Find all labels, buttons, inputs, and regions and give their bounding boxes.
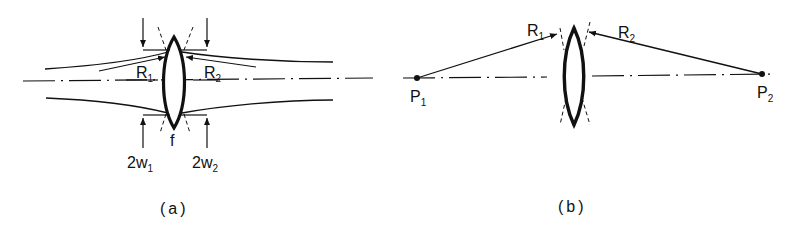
beam-upper-right — [182, 52, 333, 62]
label-r2-a: R2 — [204, 64, 222, 84]
point-p1 — [414, 75, 420, 81]
lens-figure: R1 R2 f 2w1 2w2 (a) R1 R2 P1 P2 (b) — [0, 0, 787, 233]
caption-b: (b) — [558, 198, 587, 215]
label-r1-b: R1 — [527, 22, 545, 42]
label-p2: P2 — [757, 84, 774, 104]
panel-b: R1 R2 P1 P2 (b) — [403, 22, 775, 215]
r1-arrow-b — [417, 34, 557, 78]
r2-arrow-b — [589, 32, 762, 74]
panel-a: R1 R2 f 2w1 2w2 (a) — [23, 18, 373, 217]
optical-axis-b-right — [592, 74, 775, 76]
label-2w2: 2w2 — [192, 154, 218, 174]
optical-axis-b-left — [403, 77, 547, 78]
label-p1: P1 — [410, 88, 427, 108]
caption-a: (a) — [160, 200, 189, 217]
beam-lower-left — [46, 98, 168, 113]
lens-b — [564, 28, 584, 125]
lens-a — [164, 37, 185, 128]
beam-lower-right — [182, 100, 333, 113]
point-p2 — [759, 71, 765, 77]
label-2w1: 2w1 — [127, 154, 153, 174]
label-f: f — [170, 132, 175, 149]
label-r1-a: R1 — [136, 64, 154, 84]
